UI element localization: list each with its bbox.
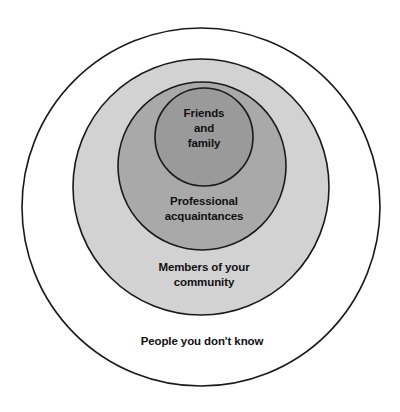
ring-label-professional: Professional acquaintances: [122, 194, 286, 224]
social-circles-diagram: Friends and family Professional acquaint…: [0, 0, 400, 412]
ring-label-community: Members of your community: [116, 260, 292, 290]
ring-label-strangers: People you don't know: [100, 334, 304, 349]
ring-label-friends-family: Friends and family: [154, 106, 254, 152]
